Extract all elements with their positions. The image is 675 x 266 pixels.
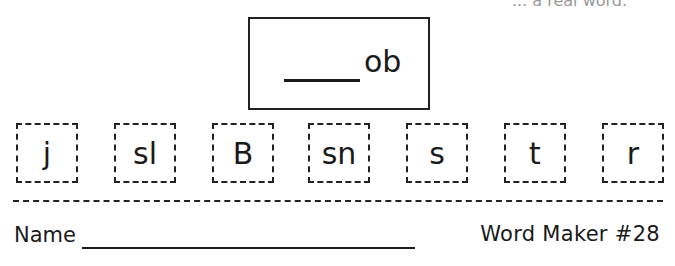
tile-letters: t xyxy=(529,136,541,171)
tile-letters: r xyxy=(627,136,639,171)
letter-tile[interactable]: B xyxy=(212,123,274,183)
tile-letters: sn xyxy=(322,136,357,171)
letter-tile[interactable]: sl xyxy=(114,123,176,183)
name-label: Name xyxy=(14,223,76,247)
tile-letters: B xyxy=(233,136,254,171)
letter-tile[interactable]: t xyxy=(504,123,566,183)
tile-letters: j xyxy=(43,136,51,171)
letter-tile[interactable]: s xyxy=(406,123,468,183)
worksheet-title: Word Maker #28 xyxy=(480,222,660,246)
word-ending: ob xyxy=(364,47,401,77)
letter-tile[interactable]: r xyxy=(602,123,664,183)
letter-tile[interactable]: j xyxy=(16,123,78,183)
tile-letters: s xyxy=(429,136,445,171)
name-field-line[interactable] xyxy=(82,247,415,249)
instruction-text-cutoff: ... a real word. xyxy=(512,0,627,10)
letter-tile[interactable]: sn xyxy=(308,123,370,183)
blank-line[interactable] xyxy=(284,79,360,82)
cut-line-divider xyxy=(13,200,663,202)
tile-letters: sl xyxy=(133,136,157,171)
word-box: ob xyxy=(248,17,430,110)
